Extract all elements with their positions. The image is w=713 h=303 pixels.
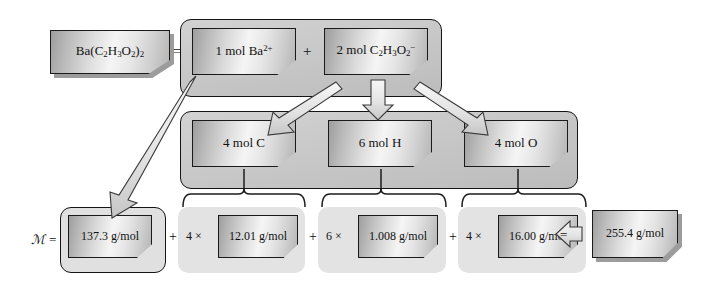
equals-operator-final: = (560, 227, 567, 243)
molar-mass-symbol: ℳ = (31, 232, 57, 248)
total-molar-mass-label: 255.4 g/mol (606, 227, 664, 240)
barium-ion-box[interactable]: 1 mol Ba2+ (192, 28, 296, 75)
total-molar-mass-box[interactable]: 255.4 g/mol (592, 210, 678, 258)
plus-operator-3: + (449, 229, 457, 245)
barium-molar-mass-label: 137.3 g/mol (81, 230, 139, 243)
acetate-ion-box[interactable]: 2 mol C2H3O2− (324, 28, 428, 75)
hydrogen-moles-label: 6 mol H (359, 136, 402, 150)
carbon-moles-label: 4 mol C (223, 136, 265, 150)
plus-operator-2: + (309, 229, 317, 245)
compound-formula-label: Ba(C2H3O2)2 (76, 44, 144, 60)
hydrogen-molar-mass-label: 1.008 g/mol (369, 230, 427, 243)
multiplier-oxygen: 4 × (466, 229, 482, 244)
carbon-molar-mass-label: 12.01 g/mol (229, 230, 287, 243)
plus-operator-1: + (169, 229, 177, 245)
hydrogen-moles-box[interactable]: 6 mol H (328, 120, 432, 167)
oxygen-moles-label: 4 mol O (495, 136, 538, 150)
plus-operator-ions: + (303, 43, 311, 60)
molar-mass-diagram: Ba(C2H3O2)2 = 1 mol Ba2+ + 2 mol C2H3O2−… (0, 0, 713, 303)
oxygen-molar-mass-label: 16.00 g/mol (509, 230, 567, 243)
barium-molar-mass-box[interactable]: 137.3 g/mol (68, 215, 152, 258)
hydrogen-molar-mass-box[interactable]: 1.008 g/mol (358, 215, 438, 258)
carbon-molar-mass-box[interactable]: 12.01 g/mol (218, 215, 298, 258)
acetate-ion-label: 2 mol C2H3O2− (337, 43, 416, 59)
barium-ion-label: 1 mol Ba2+ (215, 44, 272, 58)
multiplier-hydrogen: 6 × (326, 229, 342, 244)
oxygen-moles-box[interactable]: 4 mol O (464, 120, 568, 167)
compound-formula-box[interactable]: Ba(C2H3O2)2 (50, 30, 170, 74)
multiplier-carbon: 4 × (186, 229, 202, 244)
equals-operator-compound: = (173, 43, 181, 60)
carbon-moles-box[interactable]: 4 mol C (192, 120, 296, 167)
